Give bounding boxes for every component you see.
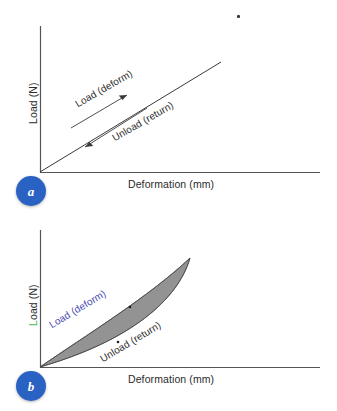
panel-a-y-axis-label: Load (N)	[27, 82, 39, 124]
panel-badge-a: a	[16, 176, 46, 206]
figure-root: Load (deform) Unload (return) Load (N) D…	[0, 0, 337, 411]
panel-badge-b: b	[16, 371, 46, 401]
panel-b-y-axis-label: Load (N)	[27, 284, 39, 326]
panel-badge-a-letter: a	[28, 185, 35, 198]
panel-b-marker-upper	[129, 306, 132, 309]
stray-speck	[237, 15, 240, 18]
panel-b-x-axis-label: Deformation (mm)	[128, 373, 214, 385]
panel-a-x-axis-label: Deformation (mm)	[128, 178, 214, 190]
panel-a: Load (deform) Unload (return) Load (N) D…	[0, 0, 337, 208]
panel-b-y-axis-label-accent: L	[27, 320, 39, 326]
panel-badge-b-letter: b	[28, 380, 35, 393]
panel-b: Load (deform) Unload (return) Load (N) D…	[0, 208, 337, 411]
